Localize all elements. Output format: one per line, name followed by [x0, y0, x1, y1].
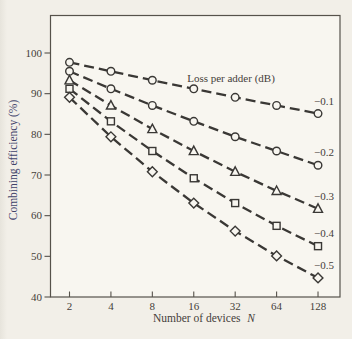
- marker-circle: [66, 59, 74, 67]
- series-label: −0.3: [314, 190, 334, 202]
- y-axis-title: Combining efficiency (%): [7, 100, 20, 221]
- y-tick-label: 50: [31, 250, 43, 262]
- marker-circle: [149, 76, 157, 84]
- x-axis-title: Number of devices N: [153, 312, 256, 324]
- marker-circle: [273, 147, 281, 155]
- y-tick-label: 80: [31, 128, 43, 140]
- x-axis-title-text: Number of devices: [153, 312, 241, 324]
- marker-square: [107, 118, 114, 125]
- plot-area-border: [51, 16, 341, 298]
- marker-square: [273, 222, 280, 229]
- marker-circle: [107, 68, 115, 76]
- y-tick-label: 90: [31, 87, 43, 99]
- y-tick-label: 100: [26, 47, 43, 59]
- series-label: −0.2: [314, 146, 334, 158]
- series-label: −0.5: [314, 259, 334, 271]
- marker-circle: [190, 118, 198, 126]
- marker-circle: [107, 85, 115, 93]
- marker-square: [66, 85, 73, 92]
- marker-square: [232, 200, 239, 207]
- x-tick-label: 2: [67, 300, 73, 312]
- marker-circle: [149, 102, 157, 110]
- marker-square: [190, 175, 197, 182]
- x-axis-title-variable: N: [246, 312, 256, 324]
- y-tick-label: 70: [31, 169, 43, 181]
- marker-circle: [314, 110, 322, 118]
- x-tick-label: 32: [230, 300, 241, 312]
- x-tick-label: 8: [150, 300, 156, 312]
- marker-square: [149, 148, 156, 155]
- marker-circle: [231, 94, 239, 102]
- y-tick-label: 40: [31, 291, 43, 303]
- series-label: −0.4: [314, 227, 334, 239]
- x-tick-label: 4: [108, 300, 114, 312]
- marker-square: [315, 243, 322, 250]
- figure: 405060708090100248163264128−0.1−0.2−0.3−…: [0, 0, 352, 339]
- chart-canvas: 405060708090100248163264128−0.1−0.2−0.3−…: [0, 0, 352, 339]
- x-tick-label: 16: [188, 300, 200, 312]
- marker-circle: [273, 102, 281, 110]
- marker-circle: [190, 85, 198, 93]
- x-tick-label: 128: [310, 300, 327, 312]
- marker-circle: [314, 161, 322, 169]
- marker-circle: [231, 133, 239, 141]
- series-label: −0.1: [314, 95, 334, 107]
- y-tick-label: 60: [31, 209, 43, 221]
- legend-title: Loss per adder (dB): [187, 72, 275, 85]
- plot-layer: 405060708090100248163264128−0.1−0.2−0.3−…: [26, 16, 341, 313]
- x-tick-label: 64: [271, 300, 283, 312]
